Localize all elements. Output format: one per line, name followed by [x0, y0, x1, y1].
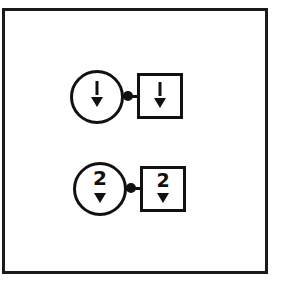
- square-node-2-label: 2: [143, 169, 183, 191]
- circle-node-2: 2: [73, 162, 127, 216]
- square-node-1: [137, 73, 183, 119]
- down-arrow-icon: [94, 193, 106, 203]
- square-node-2: 2: [140, 166, 186, 212]
- down-arrow-icon: [91, 97, 103, 107]
- connector-dot: [123, 91, 133, 101]
- connector-dot: [126, 183, 136, 193]
- arrow-stem-icon: [96, 81, 99, 95]
- diagram-frame: [2, 8, 268, 274]
- arrow-stem-icon: [159, 82, 162, 96]
- circle-node-2-label: 2: [76, 167, 124, 189]
- circle-node-1: [70, 70, 124, 124]
- down-arrow-icon: [157, 193, 169, 203]
- down-arrow-icon: [154, 98, 166, 108]
